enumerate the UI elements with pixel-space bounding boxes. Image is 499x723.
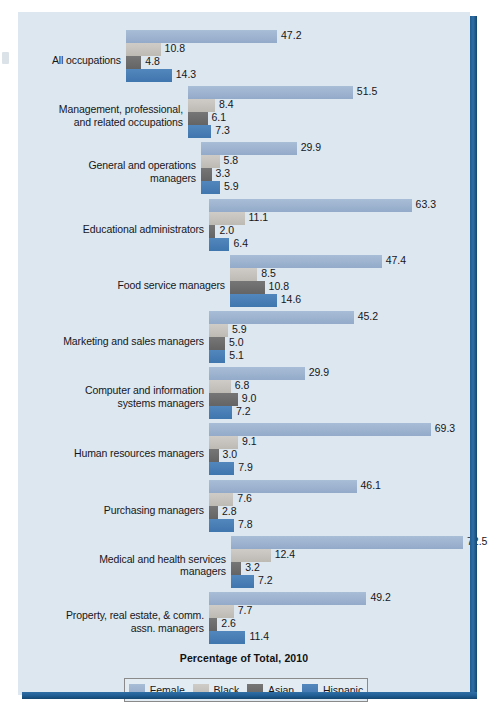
bar-value-label: 11.1 <box>249 211 269 224</box>
bar-asian <box>126 56 141 69</box>
bar-value-label: 4.8 <box>145 55 160 68</box>
bar-asian <box>209 506 218 519</box>
bar-female <box>209 592 366 605</box>
bar-female <box>209 367 305 380</box>
category-label: Management, professional, and related oc… <box>19 103 183 128</box>
bar-value-label: 7.6 <box>237 492 252 505</box>
x-axis-title: Percentage of Total, 2010 <box>18 652 470 664</box>
bar-female <box>231 536 463 549</box>
bar-value-label: 3.2 <box>245 561 260 574</box>
bar-value-label: 5.9 <box>232 323 247 336</box>
panel-edge-right <box>470 16 477 699</box>
category-label: Purchasing managers <box>19 504 204 517</box>
bar-female <box>188 86 353 99</box>
bar-hispanic <box>201 181 220 194</box>
bar-value-label: 47.2 <box>281 29 301 42</box>
bar-value-label: 11.4 <box>249 630 269 643</box>
bar-female <box>209 199 412 212</box>
bar-hispanic <box>209 631 245 644</box>
bar-value-label: 29.9 <box>301 141 321 154</box>
bar-value-label: 14.3 <box>176 68 196 81</box>
bar-value-label: 7.2 <box>236 405 251 418</box>
bar-female <box>230 255 382 268</box>
bar-hispanic <box>231 575 254 588</box>
category-label: Property, real estate, & comm. assn. man… <box>19 609 204 634</box>
bar-value-label: 8.4 <box>219 98 234 111</box>
bar-value-label: 5.9 <box>224 180 239 193</box>
chart-panel: All occupations47.210.84.814.3Management… <box>18 12 470 695</box>
category-label: Food service managers <box>19 279 225 292</box>
bar-value-label: 5.8 <box>224 154 239 167</box>
bar-asian <box>209 337 225 350</box>
bar-value-label: 7.2 <box>258 574 273 587</box>
bar-hispanic <box>126 69 172 82</box>
category-label: Marketing and sales managers <box>19 335 204 348</box>
bar-value-label: 3.3 <box>216 167 231 180</box>
bar-value-label: 51.5 <box>357 85 377 98</box>
bar-asian <box>209 449 219 462</box>
panel-edge-bottom <box>22 692 477 699</box>
bar-asian <box>209 225 215 238</box>
bar-value-label: 5.1 <box>229 349 244 362</box>
bar-value-label: 47.4 <box>386 254 406 267</box>
bar-value-label: 9.0 <box>242 392 257 405</box>
bar-value-label: 7.8 <box>238 518 253 531</box>
plot-area: All occupations47.210.84.814.3Management… <box>18 12 470 695</box>
category-label: Human resources managers <box>19 447 204 460</box>
bar-hispanic <box>230 294 277 307</box>
bar-asian <box>230 281 265 294</box>
bar-black <box>209 380 231 393</box>
bar-value-label: 6.8 <box>235 379 250 392</box>
bar-asian <box>188 112 208 125</box>
bar-value-label: 45.2 <box>358 310 378 323</box>
bar-value-label: 10.8 <box>269 280 289 293</box>
bar-female <box>201 142 297 155</box>
bar-hispanic <box>209 519 234 532</box>
bar-value-label: 5.0 <box>229 336 244 349</box>
bar-hispanic <box>188 125 211 138</box>
bar-hispanic <box>209 462 234 475</box>
category-label: Educational administrators <box>19 223 204 236</box>
category-label: General and operations managers <box>19 159 196 184</box>
bar-asian <box>209 393 238 406</box>
bar-value-label: 49.2 <box>370 591 390 604</box>
bar-value-label: 7.7 <box>238 604 253 617</box>
bar-value-label: 46.1 <box>361 479 381 492</box>
bar-value-label: 9.1 <box>242 435 257 448</box>
bar-value-label: 6.4 <box>233 237 248 250</box>
bar-hispanic <box>209 238 229 251</box>
bar-black <box>209 324 228 337</box>
bar-value-label: 63.3 <box>416 198 436 211</box>
bar-hispanic <box>209 350 225 363</box>
bar-value-label: 12.4 <box>275 548 295 561</box>
bar-female <box>126 30 277 43</box>
page-edge-artifact <box>2 52 9 64</box>
bar-value-label: 14.6 <box>281 293 301 306</box>
bar-female <box>209 311 354 324</box>
category-label: Computer and information systems manager… <box>19 384 204 409</box>
bar-value-label: 7.9 <box>238 461 253 474</box>
bar-asian <box>201 168 212 181</box>
bar-hispanic <box>209 406 232 419</box>
bar-value-label: 3.0 <box>223 448 238 461</box>
bar-female <box>209 480 357 493</box>
bar-value-label: 6.1 <box>212 111 227 124</box>
category-label: Medical and health services managers <box>19 553 226 578</box>
bar-value-label: 2.6 <box>221 617 236 630</box>
category-label: All occupations <box>19 54 121 67</box>
bar-value-label: 7.3 <box>215 124 230 137</box>
bar-value-label: 29.9 <box>309 366 329 379</box>
bar-value-label: 2.8 <box>222 505 237 518</box>
bar-asian <box>209 618 217 631</box>
bar-black <box>230 268 257 281</box>
bar-value-label: 69.3 <box>435 422 455 435</box>
bar-value-label: 8.5 <box>261 267 276 280</box>
bar-value-label: 2.0 <box>219 224 234 237</box>
bar-value-label: 10.8 <box>165 42 185 55</box>
bar-asian <box>231 562 241 575</box>
